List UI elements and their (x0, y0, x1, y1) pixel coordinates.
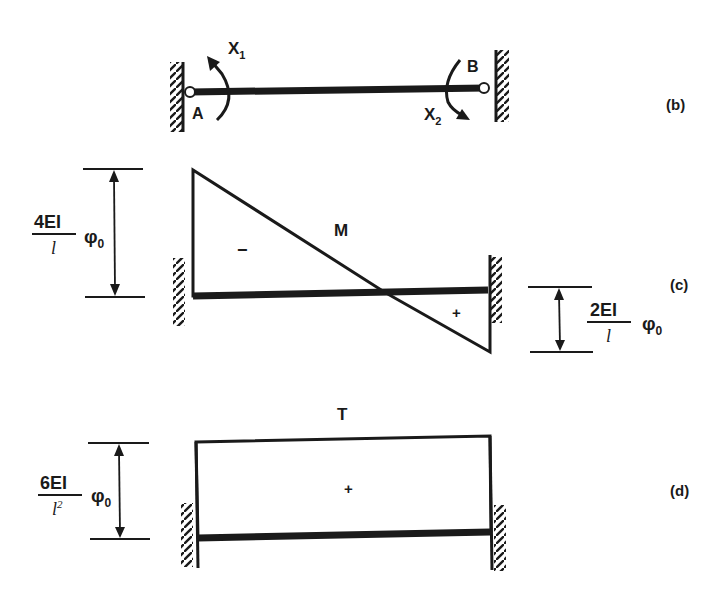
fixed-support-right-icon (490, 257, 502, 323)
panel-label-d: (d) (670, 482, 689, 499)
moment-x1-label: X1 (228, 39, 245, 61)
diagram-title-t: T (337, 405, 348, 424)
moment-diagram-negative (193, 170, 386, 296)
dimension-arrow-left (114, 176, 115, 290)
sign-positive: + (344, 480, 353, 497)
hinge-a-icon (185, 87, 195, 97)
moment-right-magnitude: 2EI l φ0 (587, 300, 663, 346)
moment-diagram-positive (386, 255, 490, 352)
panel-b: X1 X2 A B (b) (170, 39, 685, 132)
moment-x2-label: X2 (424, 105, 441, 127)
fixed-support-right-icon (496, 50, 509, 122)
node-b-label: B (467, 58, 479, 75)
beam (198, 532, 490, 538)
sign-negative: − (237, 240, 248, 260)
beam (190, 88, 486, 92)
svg-text:l: l (606, 326, 611, 346)
dimension-arrow-right (559, 294, 560, 345)
beam (193, 290, 488, 296)
svg-text:φ0: φ0 (84, 226, 105, 251)
fixed-support-left-icon (173, 258, 185, 326)
moment-left-magnitude: 4EI l φ0 (32, 212, 105, 258)
shear-magnitude: 6EI l2 φ0 (38, 473, 112, 519)
panel-label-b: (b) (666, 96, 685, 113)
svg-text:φ0: φ0 (642, 313, 663, 338)
svg-text:2EI: 2EI (590, 300, 617, 320)
fixed-support-right-icon (494, 505, 506, 571)
svg-text:φ0: φ0 (91, 485, 112, 510)
fixed-support-left-icon (170, 62, 183, 132)
node-a-label: A (192, 105, 204, 122)
svg-text:l: l (51, 238, 56, 258)
fixed-support-left-icon (181, 503, 193, 567)
structural-diagram: X1 X2 A B (b) 4EI l φ0 M − + (0, 0, 728, 604)
diagram-title-m: M (334, 221, 348, 240)
panel-c: 4EI l φ0 M − + 2EI l φ0 (c) (32, 169, 688, 352)
dimension-arrow-shear (119, 450, 120, 532)
svg-text:l2: l2 (52, 498, 63, 519)
svg-text:4EI: 4EI (34, 212, 61, 232)
panel-d: 6EI l2 φ0 T + (d) (38, 405, 689, 571)
panel-label-c: (c) (670, 276, 688, 293)
hinge-b-icon (479, 83, 489, 93)
svg-text:6EI: 6EI (40, 473, 67, 493)
sign-positive: + (452, 304, 461, 321)
